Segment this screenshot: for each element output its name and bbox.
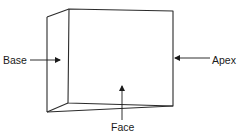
prism-shape — [47, 9, 173, 112]
pointer-arrows — [30, 58, 210, 120]
base-label: Base — [3, 55, 27, 66]
bottom-edge — [47, 106, 173, 112]
front-face — [68, 9, 173, 106]
prism-diagram — [0, 0, 239, 136]
apex-label: Apex — [212, 55, 236, 66]
base-top-edge — [47, 9, 69, 17]
face-label: Face — [111, 122, 134, 133]
